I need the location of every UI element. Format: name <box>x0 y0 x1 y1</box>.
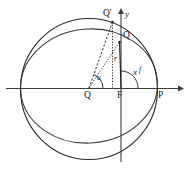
figure-canvas <box>0 0 187 170</box>
y-axis-label: y <box>125 10 129 19</box>
segment-label-focal-radius: r <box>114 55 117 63</box>
angle-label-eccentric-anomaly: u <box>97 74 101 82</box>
point-label-f-focus: F <box>117 91 122 101</box>
angle-label-true-anomaly: f <box>139 66 141 74</box>
point-label-q-prime: Q' <box>103 9 112 19</box>
geometry-figure: x y Q' Q Q F P u f r <box>0 0 187 170</box>
x-axis-arrowhead <box>178 86 184 92</box>
y-axis-arrowhead <box>118 8 124 14</box>
x-axis-label: x <box>133 68 137 77</box>
point-label-q-ellipse: Q <box>123 31 130 41</box>
point-label-q-center: Q <box>84 91 91 101</box>
point-marker-q-ellipse <box>118 41 120 43</box>
point-marker-q-prime <box>111 21 113 23</box>
point-label-p-vertex: P <box>158 91 163 101</box>
center-to-ellipse-point-line <box>89 42 120 88</box>
